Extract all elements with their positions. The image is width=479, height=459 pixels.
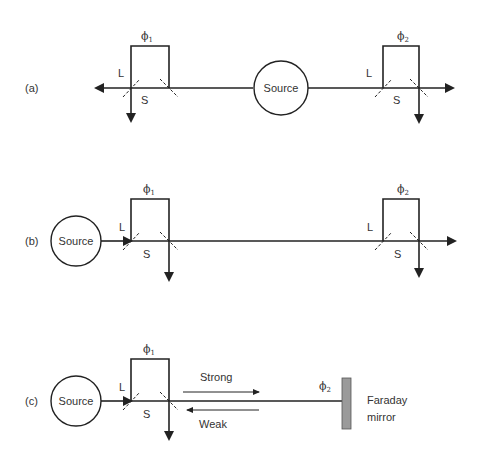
long-arm-label: L (119, 381, 125, 393)
long-arm-1 (131, 359, 169, 401)
long-arm-1 (131, 199, 169, 241)
short-arm-label: S (394, 248, 401, 260)
short-arm-label: S (143, 408, 150, 420)
phase-modulator-2-label: ϕ2 (397, 183, 409, 197)
panel-b-label: (b) (25, 235, 38, 247)
long-arm-2 (383, 199, 419, 241)
short-arm-label: S (141, 94, 148, 106)
faraday-mirror-label-2: mirror (367, 411, 396, 423)
phase-modulator-1-label: ϕ1 (143, 343, 155, 357)
phase-modulator-1-label: ϕ1 (143, 183, 155, 197)
panel-a: (a) ϕ1 L S Source ϕ2 L S (25, 30, 453, 122)
phase-modulator-2-label: ϕ2 (319, 380, 331, 394)
source-label: Source (264, 82, 299, 94)
phase-modulator-1-label: ϕ1 (141, 30, 153, 44)
weak-pulse-label: Weak (199, 418, 227, 430)
faraday-mirror-label-1: Faraday (367, 394, 408, 406)
phase-modulator-2-label: ϕ2 (397, 30, 409, 44)
long-arm-2 (383, 46, 419, 88)
panel-c: (c) Source ϕ1 L S Strong Weak ϕ2 Faraday… (25, 343, 408, 439)
panel-a-label: (a) (25, 82, 38, 94)
short-arm-label: S (143, 248, 150, 260)
strong-pulse-label: Strong (200, 371, 232, 383)
long-arm-label: L (118, 67, 124, 79)
panel-b: (b) Source ϕ1 L S ϕ2 L S (25, 183, 455, 280)
faraday-mirror (342, 378, 351, 429)
short-arm-label: S (393, 94, 400, 106)
long-arm-label: L (367, 221, 373, 233)
panel-c-label: (c) (25, 395, 38, 407)
long-arm-label: L (366, 67, 372, 79)
long-arm-1 (131, 46, 169, 88)
source-label: Source (59, 235, 94, 247)
source-label: Source (59, 395, 94, 407)
long-arm-label: L (119, 221, 125, 233)
interferometer-diagram: (a) ϕ1 L S Source ϕ2 L S (b) Source (0, 0, 479, 459)
